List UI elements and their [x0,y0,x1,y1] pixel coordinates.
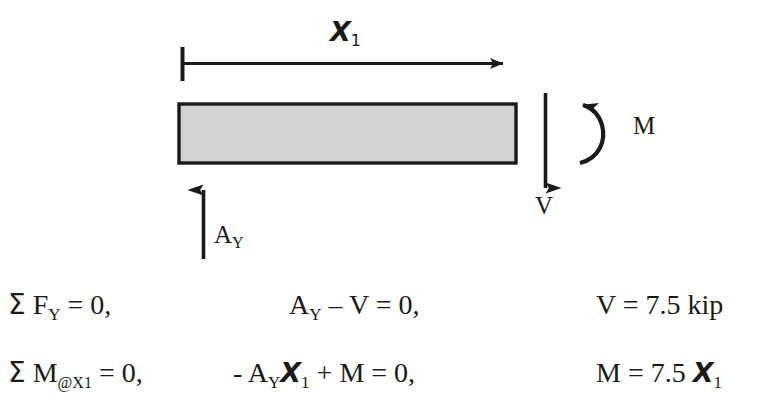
dimension-label-x1-base: X [330,16,351,47]
equation-2-sum-tail: = 0, [92,357,143,388]
equation-2-eq-lead-sub: Y [268,373,280,392]
sigma-symbol-1: Σ [8,288,26,321]
equation-2-result-x: X [693,357,714,388]
dimension-label-x1-sub: 1 [351,31,361,50]
equation-row-1: Σ FY = 0, AY – V = 0, V = 7.5 kip [0,282,781,328]
equation-1-eq-lead-sub: Y [309,305,321,324]
equation-1-equilibrium: AY – V = 0, [289,282,420,332]
equation-2-eq-lead: - A [233,357,268,388]
reaction-label-ay-base: A [214,221,232,248]
equation-1-sum-base: F [26,289,49,320]
equation-2-eq-x: X [280,357,301,388]
moment-arrow-m [580,105,603,163]
equation-row-2: Σ M@X1 = 0, - AYX1 + M = 0, M = 7.5 X1 [0,350,781,396]
shear-label-v-base: V [535,192,553,219]
shear-label-v: V [535,192,553,220]
equation-1-sum-sub: Y [48,305,60,324]
equation-2-equilibrium: - AYX1 + M = 0, [233,350,415,400]
equation-2-result: M = 7.5 X1 [596,350,722,400]
moment-label-m-base: M [633,112,655,139]
equation-1-eq-lead: A [289,289,309,320]
equation-2-sum-sub: @X1 [58,374,92,391]
equation-1-sum: Σ FY = 0, [8,282,111,332]
equation-2-sum-base: M [26,357,58,388]
equation-2-sum: Σ M@X1 = 0, [8,350,143,400]
beam-segment [179,104,516,163]
equation-1-eq-tail: – V = 0, [322,289,420,320]
equation-2-result-x-sub: 1 [714,373,723,392]
dimension-label-x1: X1 [330,16,361,47]
reaction-label-ay: AY [214,221,244,249]
equation-2-eq-x-sub: 1 [301,373,310,392]
equation-1-result-text: V = 7.5 kip [596,289,723,320]
moment-label-m: M [633,112,655,140]
sigma-symbol-2: Σ [8,356,26,389]
equation-2-eq-tail: + M = 0, [310,357,415,388]
equation-1-result: V = 7.5 kip [596,282,723,328]
reaction-label-ay-sub: Y [232,234,244,251]
equation-1-sum-tail: = 0, [61,289,112,320]
equation-2-result-lead: M = 7.5 [596,357,693,388]
